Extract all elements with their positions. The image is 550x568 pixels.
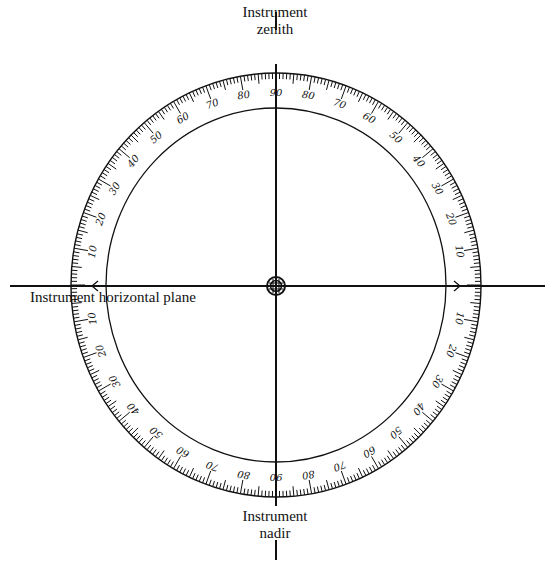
degree-number: 70 (331, 459, 347, 474)
degree-number: 50 (387, 424, 404, 441)
degree-number: 10 (453, 244, 466, 259)
zenith-label-line1: Instrument (225, 4, 325, 21)
degree-number: 80 (236, 468, 251, 481)
degree-number: 20 (93, 211, 108, 228)
degree-number: 70 (204, 459, 220, 474)
degree-number: 90 (270, 87, 283, 98)
degree-number: 70 (332, 96, 348, 111)
degree-number: 60 (361, 110, 378, 126)
degree-number: 80 (301, 89, 316, 102)
nadir-label: Instrument nadir (225, 508, 325, 542)
degree-number: 30 (107, 180, 123, 197)
degree-number: 10 (86, 244, 99, 259)
degree-number: 80 (236, 88, 251, 101)
degree-number: 50 (147, 424, 164, 441)
nadir-label-line2: nadir (225, 525, 325, 542)
horizontal-plane-label: Instrument horizontal plane (30, 289, 196, 306)
degree-number: 70 (204, 96, 220, 111)
degree-number: 60 (174, 110, 191, 126)
zenith-label: Instrument zenith (225, 4, 325, 38)
degree-number: 60 (174, 444, 191, 460)
degree-number: 90 (269, 472, 282, 483)
degree-number: 20 (444, 342, 459, 359)
degree-number: 40 (410, 152, 428, 170)
degree-number: 30 (429, 373, 445, 390)
nadir-label-line1: Instrument (225, 508, 325, 525)
degree-number: 30 (430, 180, 446, 197)
zenith-label-line2: zenith (225, 21, 325, 38)
degree-number: 20 (93, 343, 108, 360)
degree-number: 30 (106, 373, 122, 390)
degree-number: 20 (444, 210, 459, 227)
vertical-circle-svg: 1020304050607080901020304050607080102030… (0, 0, 550, 568)
degree-number: 10 (453, 311, 466, 326)
degree-number: 80 (301, 468, 316, 481)
degree-number: 50 (148, 129, 165, 146)
degree-number: 50 (387, 129, 404, 146)
degree-number: 10 (86, 311, 99, 326)
vertical-circle-diagram: 1020304050607080901020304050607080102030… (0, 0, 550, 568)
degree-number: 40 (124, 400, 142, 418)
degree-number: 60 (360, 444, 377, 460)
